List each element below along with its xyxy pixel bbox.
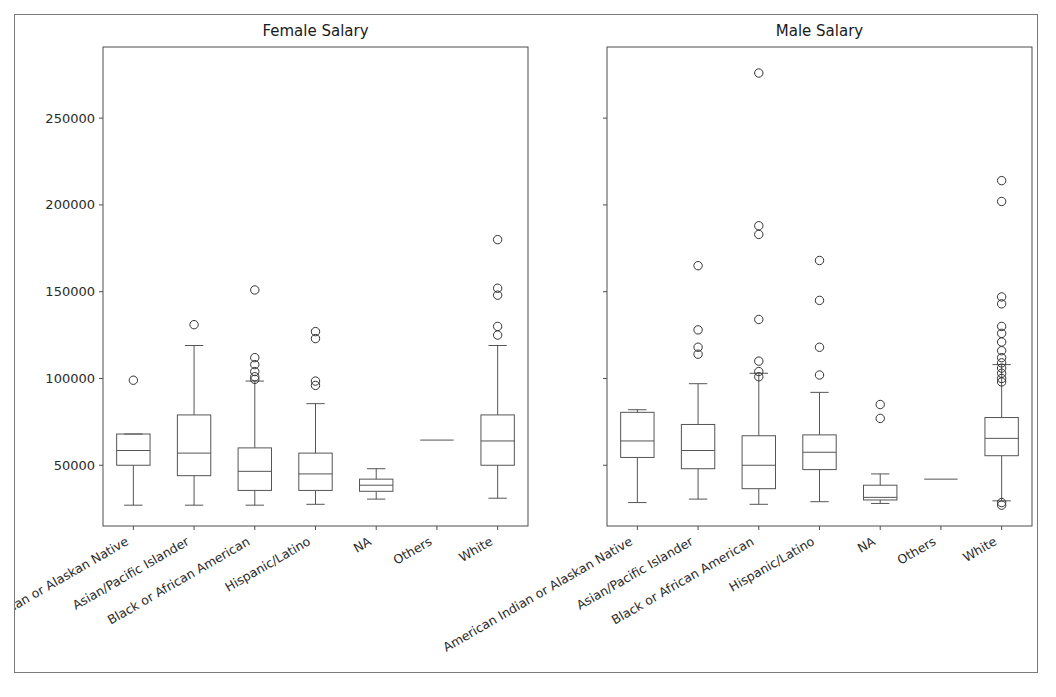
box-0-3-rect [299,453,332,490]
box-1-6-flier-1 [997,197,1005,205]
box-1-2-flier-1 [755,222,763,230]
box-1-6-flier-0 [997,176,1005,184]
x-tick-label-0-0: American Indian or Alaskan Native [15,533,131,654]
box-0-6-flier-4 [493,331,501,339]
x-tick-label-1-6: White [960,533,999,564]
box-0-6-flier-3 [493,322,501,330]
box-1-3-flier-0 [815,256,823,264]
x-tick-label-0-4: NA [351,533,374,555]
box-1-1-flier-1 [694,326,702,334]
box-0-2-flier-0 [251,286,259,294]
box-1-2-flier-2 [755,230,763,238]
panel-title-1: Male Salary [776,22,864,40]
box-0-2-rect [238,448,271,491]
x-tick-label-1-4: NA [855,533,878,555]
x-tick-label-0-6: White [456,533,495,564]
box-1-6-flier-6 [997,338,1005,346]
y-tick-label-0: 50000 [54,458,95,473]
box-1-0-rect [621,412,654,457]
box-1-1-rect [681,424,714,468]
box-0-1-flier-0 [190,320,198,328]
box-1-2-rect [742,436,775,489]
y-tick-label-3: 200000 [45,197,95,212]
box-1-1-flier-0 [694,261,702,269]
box-0-0-flier-0 [129,376,137,384]
figure-frame: Female Salary500001000001500002000002500… [14,14,1038,673]
box-1-3-flier-1 [815,296,823,304]
plot-area-1 [607,47,1032,526]
box-1-3-flier-3 [815,371,823,379]
box-1-6-rect [985,418,1018,456]
y-tick-label-4: 250000 [45,111,95,126]
plot-area-0 [103,47,528,526]
box-0-0-rect [117,434,150,465]
panel-title-0: Female Salary [262,22,368,40]
box-1-2-flier-0 [755,69,763,77]
boxplot-chart: Female Salary500001000001500002000002500… [15,15,1037,672]
x-tick-label-1-5: Others [895,534,939,568]
x-tick-label-0-5: Others [391,534,435,568]
box-1-4-flier-1 [876,414,884,422]
y-tick-label-1: 100000 [45,371,95,386]
y-tick-label-2: 150000 [45,284,95,299]
box-0-6-flier-0 [493,235,501,243]
box-1-3-flier-2 [815,343,823,351]
box-1-2-flier-4 [755,357,763,365]
box-0-1-rect [177,415,210,476]
box-0-6-rect [481,415,514,465]
box-1-2-flier-3 [755,315,763,323]
box-1-4-flier-0 [876,400,884,408]
